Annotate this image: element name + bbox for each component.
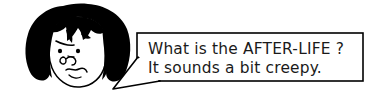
character-worried-girl (25, 4, 130, 87)
speech-line-2: It sounds a bit creepy. (148, 59, 322, 77)
cartoon-illustration: What is the AFTER-LIFE ? It sounds a bit… (0, 0, 375, 100)
eye-right (76, 49, 80, 54)
cartoon-scene: What is the AFTER-LIFE ? It sounds a bit… (0, 0, 375, 100)
speech-line-1: What is the AFTER-LIFE ? (148, 40, 344, 58)
eye-left (58, 49, 62, 54)
speech-bubble: What is the AFTER-LIFE ? It sounds a bit… (113, 33, 363, 89)
